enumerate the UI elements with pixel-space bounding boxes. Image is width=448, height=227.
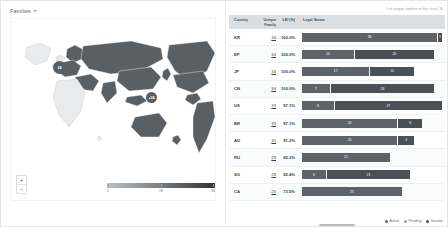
bar-segment-active[interactable]: 34: [302, 33, 437, 42]
table-row[interactable]: CN34100.0%726: [229, 81, 445, 98]
cell-legal-status-bar: 246: [298, 119, 445, 128]
cell-country: AU: [229, 138, 253, 143]
stacked-bar[interactable]: 621: [302, 170, 410, 179]
cell-unique-family[interactable]: 34: [253, 35, 281, 40]
cell-lei-pct: 100.0%: [281, 52, 298, 57]
bar-segment-active[interactable]: 13: [302, 50, 354, 59]
bar-segment-inactive[interactable]: 21: [326, 170, 410, 179]
bar-segment-active[interactable]: 24: [302, 119, 397, 128]
stacked-bar[interactable]: 25: [302, 187, 402, 196]
bar-segment-active[interactable]: 25: [302, 187, 402, 196]
bar-segment-inactive[interactable]: 27: [334, 101, 442, 110]
cell-unique-family[interactable]: 34: [253, 86, 281, 91]
cell-legal-status-bar: 726: [298, 84, 445, 93]
horizontal-scrollbar[interactable]: [319, 224, 355, 226]
bar-segment-active[interactable]: 22: [302, 153, 390, 162]
table-row[interactable]: KR34100.0%341: [229, 29, 445, 46]
cell-legal-status-bar: 1320: [298, 50, 445, 59]
stacked-bar[interactable]: 726: [302, 84, 434, 93]
header-legal-status[interactable]: Legal Status: [298, 18, 445, 23]
cell-unique-family[interactable]: 33: [253, 103, 281, 108]
table-row[interactable]: JP34100.0%1711: [229, 63, 445, 80]
cell-legal-status-bar: 1711: [298, 67, 445, 76]
cell-unique-family[interactable]: 25: [253, 189, 281, 194]
cell-legal-status-bar: 22: [298, 153, 445, 162]
cell-legal-status-bar: 827: [298, 101, 445, 110]
bar-segment-inactive[interactable]: 20: [354, 50, 434, 59]
map-zoom-controls[interactable]: + −: [16, 175, 27, 194]
cell-unique-family[interactable]: 31: [253, 138, 281, 143]
table-header-row: Country Unique Family LEI (%) Legal Stat…: [229, 15, 445, 29]
bar-segment-active[interactable]: 7: [302, 84, 330, 93]
cell-legal-status-bar: 25: [298, 187, 445, 196]
stacked-bar[interactable]: 1711: [302, 67, 414, 76]
cell-lei-pct: 97.1%: [281, 121, 298, 126]
world-map[interactable]: 34 +34 + − 1 18 34: [10, 18, 216, 201]
bar-segment-active[interactable]: 17: [302, 67, 369, 76]
cell-lei-pct: 100.0%: [281, 69, 298, 74]
cell-lei-pct: 82.4%: [281, 172, 298, 177]
cell-lei-pct: 97.1%: [281, 103, 298, 108]
page-title: Families: [10, 8, 31, 14]
bar-segment-active[interactable]: 24: [302, 136, 397, 145]
stacked-bar[interactable]: 1320: [302, 50, 434, 59]
zoom-out-button[interactable]: −: [17, 184, 26, 193]
cell-country: SG: [229, 172, 253, 177]
header-unique-family[interactable]: Unique Family: [253, 18, 281, 27]
map-cluster-marker[interactable]: +34: [146, 92, 157, 103]
colorbar-tick: 34: [211, 188, 215, 192]
cell-unique-family[interactable]: 29: [253, 155, 281, 160]
cell-legal-status-bar: 341: [298, 33, 445, 42]
cell-lei-pct: 100.0%: [281, 86, 298, 91]
legend-label: Active: [390, 219, 400, 223]
cluster-label: +34: [149, 96, 155, 100]
bar-segment-inactive[interactable]: 1: [437, 33, 442, 42]
stacked-bar[interactable]: 22: [302, 153, 390, 162]
cell-legal-status-bar: 621: [298, 170, 445, 179]
colorbar-tick: 1: [107, 188, 109, 192]
world-map-svg: [11, 19, 216, 201]
cell-unique-family[interactable]: 34: [253, 69, 281, 74]
header-lei-pct[interactable]: LEI (%): [281, 18, 298, 23]
cluster-label: 34: [58, 66, 62, 70]
cell-country: KR: [229, 35, 253, 40]
legend-label: Inactive: [431, 219, 443, 223]
stacked-bar[interactable]: 246: [302, 119, 422, 128]
header-country[interactable]: Country: [229, 18, 253, 23]
legend-swatch-icon: [404, 220, 407, 223]
table-row[interactable]: BR3397.1%246: [229, 115, 445, 132]
legend-item-inactive[interactable]: Inactive: [426, 219, 443, 223]
table-row[interactable]: RU2985.3%22: [229, 149, 445, 166]
table-row[interactable]: EP34100.0%1320: [229, 46, 445, 63]
bar-segment-inactive[interactable]: 26: [330, 84, 434, 93]
stacked-bar[interactable]: 827: [302, 101, 442, 110]
panel-title-dropdown[interactable]: Families: [10, 8, 37, 14]
cell-country: RU: [229, 155, 253, 160]
cell-unique-family[interactable]: 33: [253, 121, 281, 126]
table-panel: # of unique families in this chart: 34 C…: [225, 1, 447, 226]
zoom-in-button[interactable]: +: [17, 176, 26, 184]
map-cluster-marker[interactable]: 34: [53, 61, 66, 74]
table-row[interactable]: AU3191.2%244: [229, 132, 445, 149]
table-row[interactable]: CA2573.5%25: [229, 184, 445, 201]
table-row[interactable]: US3397.1%827: [229, 98, 445, 115]
bar-segment-inactive[interactable]: 6: [397, 119, 422, 128]
cell-unique-family[interactable]: 28: [253, 172, 281, 177]
cell-country: CN: [229, 86, 253, 91]
legend-item-pending[interactable]: Pending: [404, 219, 421, 223]
bar-segment-active[interactable]: 8: [302, 101, 334, 110]
stacked-bar[interactable]: 244: [302, 136, 414, 145]
bar-segment-inactive[interactable]: 4: [397, 136, 414, 145]
legend-item-active[interactable]: Active: [385, 219, 399, 223]
dashboard-root: Families: [0, 0, 448, 227]
colorbar-tick: 18: [159, 188, 163, 192]
bar-segment-inactive[interactable]: 11: [369, 67, 414, 76]
cell-unique-family[interactable]: 34: [253, 52, 281, 57]
stacked-bar[interactable]: 341: [302, 33, 442, 42]
cell-country: EP: [229, 52, 253, 57]
bar-segment-active[interactable]: 6: [302, 170, 326, 179]
table-row[interactable]: SG2882.4%621: [229, 167, 445, 184]
legend-swatch-icon: [426, 220, 429, 223]
chart-note: # of unique families in this chart: 34: [386, 7, 443, 11]
chevron-down-icon: [33, 10, 37, 12]
